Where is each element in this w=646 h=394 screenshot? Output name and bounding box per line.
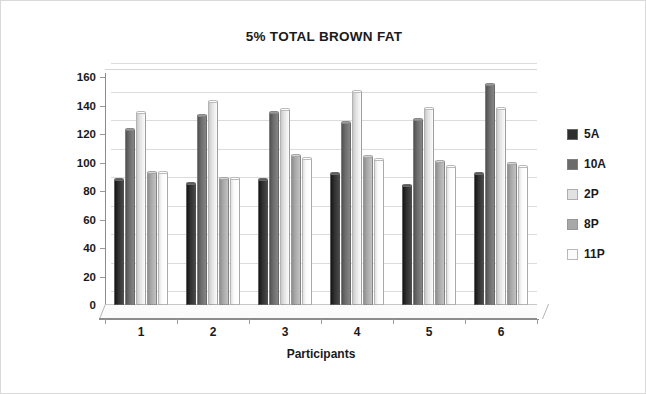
bar-face <box>374 160 384 305</box>
y-tick-label: 100 <box>77 157 96 169</box>
bar[interactable] <box>158 172 168 305</box>
bar-top-cap <box>269 111 279 114</box>
bar-top-cap <box>147 171 157 174</box>
bar-group <box>258 73 312 305</box>
bar[interactable] <box>485 84 495 305</box>
x-tick-mark <box>393 319 394 324</box>
x-tick-label: 1 <box>138 325 145 339</box>
bar[interactable] <box>507 164 517 305</box>
bar-top-cap <box>446 165 456 168</box>
bar[interactable] <box>230 178 240 305</box>
bar-top-cap <box>496 107 506 110</box>
bar-top-cap <box>341 121 351 124</box>
bar[interactable] <box>413 120 423 305</box>
bar-group <box>114 73 168 305</box>
bar-face <box>363 157 373 305</box>
bar-group <box>330 73 384 305</box>
bar-face <box>435 161 445 305</box>
chart-legend: 5A10A2P8P11P <box>567 119 606 269</box>
x-tick-mark <box>465 319 466 324</box>
y-tick-label: 60 <box>83 214 96 226</box>
bar-face <box>413 120 423 305</box>
bar[interactable] <box>186 184 196 305</box>
bars-layer <box>105 69 537 319</box>
bar-top-cap <box>363 155 373 158</box>
bar[interactable] <box>341 123 351 305</box>
x-tick-label: 5 <box>426 325 433 339</box>
y-tick-label: 40 <box>83 242 96 254</box>
bar-top-cap <box>518 165 528 168</box>
bar-face <box>485 84 495 305</box>
bar[interactable] <box>269 113 279 305</box>
bar-top-cap <box>374 158 384 161</box>
y-tick-label: 120 <box>77 128 96 140</box>
bar-top-cap <box>114 178 124 181</box>
bar-top-cap <box>219 177 229 180</box>
bar-face <box>114 180 124 305</box>
bar[interactable] <box>280 110 290 305</box>
bar[interactable] <box>424 108 434 305</box>
bar-face <box>147 172 157 305</box>
bar-top-cap <box>136 111 146 114</box>
bar-face <box>136 113 146 305</box>
bar-face <box>125 130 135 305</box>
bar[interactable] <box>374 160 384 305</box>
bar-top-cap <box>413 118 423 121</box>
bar[interactable] <box>446 167 456 305</box>
bar[interactable] <box>125 130 135 305</box>
bar[interactable] <box>435 161 445 305</box>
legend-item-11p[interactable]: 11P <box>567 239 606 269</box>
bar-face <box>446 167 456 305</box>
bar[interactable] <box>147 172 157 305</box>
x-tick-mark <box>537 319 538 324</box>
bar[interactable] <box>258 180 268 305</box>
legend-swatch-icon <box>567 129 578 140</box>
bar-top-cap <box>208 100 218 103</box>
bar-top-cap <box>197 114 207 117</box>
bar[interactable] <box>208 101 218 305</box>
bar-face <box>474 174 484 305</box>
bar-face <box>302 158 312 305</box>
bar[interactable] <box>219 178 229 305</box>
legend-item-10a[interactable]: 10A <box>567 149 606 179</box>
bar-face <box>518 167 528 305</box>
x-axis-title: Participants <box>101 347 541 361</box>
bar[interactable] <box>518 167 528 305</box>
legend-label: 11P <box>584 247 605 261</box>
bar[interactable] <box>352 91 362 305</box>
bar-face <box>269 113 279 305</box>
legend-item-2p[interactable]: 2P <box>567 179 606 209</box>
chart-frame: 5% TOTAL BROWN FAT Blood Glucose Level 1… <box>0 0 646 394</box>
bar-face <box>352 91 362 305</box>
bar[interactable] <box>302 158 312 305</box>
bar-top-cap <box>424 107 434 110</box>
bar-face <box>208 101 218 305</box>
bar-face <box>230 178 240 305</box>
bar[interactable] <box>363 157 373 305</box>
bar[interactable] <box>402 185 412 305</box>
bar-face <box>424 108 434 305</box>
bar[interactable] <box>136 113 146 305</box>
legend-label: 2P <box>584 187 599 201</box>
bar[interactable] <box>496 108 506 305</box>
bar[interactable] <box>197 115 207 305</box>
legend-item-5a[interactable]: 5A <box>567 119 606 149</box>
legend-label: 10A <box>584 157 606 171</box>
legend-item-8p[interactable]: 8P <box>567 209 606 239</box>
x-tick-label: 4 <box>354 325 361 339</box>
bar[interactable] <box>114 180 124 305</box>
legend-swatch-icon <box>567 189 578 200</box>
chart-title: 5% TOTAL BROWN FAT <box>1 29 646 44</box>
bar-face <box>219 178 229 305</box>
bar[interactable] <box>291 155 301 305</box>
bar-face <box>186 184 196 305</box>
bar-face <box>280 110 290 305</box>
x-tick-label: 6 <box>498 325 505 339</box>
bar-face <box>341 123 351 305</box>
bar[interactable] <box>474 174 484 305</box>
bar-group <box>186 73 240 305</box>
plot-area: 160140120100806040200 123456 <box>105 69 537 319</box>
bar[interactable] <box>330 174 340 305</box>
bar-group <box>402 73 456 305</box>
bar-face <box>507 164 517 305</box>
